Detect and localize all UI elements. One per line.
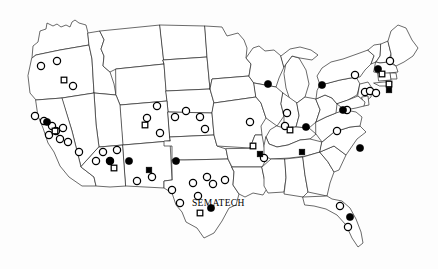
map-marker-open-circle[interactable] — [37, 62, 44, 69]
map-marker-open-circle[interactable] — [336, 202, 343, 209]
map-marker-open-circle[interactable] — [168, 186, 175, 193]
map-marker-filled-circle[interactable] — [125, 157, 132, 164]
map-marker-open-square[interactable] — [250, 143, 256, 149]
map-marker-open-circle[interactable] — [203, 173, 210, 180]
map-marker-open-circle[interactable] — [182, 107, 189, 114]
map-marker-open-square[interactable] — [386, 81, 392, 87]
map-marker-filled-circle[interactable] — [346, 213, 353, 220]
map-marker-open-square[interactable] — [111, 165, 117, 171]
map-marker-open-circle[interactable] — [333, 127, 340, 134]
map-marker-open-circle[interactable] — [133, 177, 140, 184]
map-marker-filled-circle[interactable] — [106, 157, 113, 164]
state-utah — [94, 93, 123, 147]
map-marker-open-circle[interactable] — [143, 114, 150, 121]
map-marker-filled-circle[interactable] — [172, 157, 179, 164]
map-marker-filled-circle[interactable] — [356, 144, 363, 151]
map-marker-filled-circle[interactable] — [302, 123, 309, 130]
map-labels-layer: SEMATECH — [192, 198, 245, 208]
map-marker-open-circle[interactable] — [148, 173, 155, 180]
map-marker-open-circle[interactable] — [92, 157, 99, 164]
map-marker-open-circle[interactable] — [99, 148, 106, 155]
map-marker-open-square[interactable] — [61, 77, 67, 83]
map-marker-open-circle[interactable] — [201, 125, 208, 132]
map-marker-open-circle[interactable] — [69, 82, 76, 89]
map-marker-open-circle[interactable] — [64, 138, 71, 145]
map-marker-open-circle[interactable] — [351, 71, 358, 78]
map-marker-open-square[interactable] — [142, 122, 148, 128]
map-marker-open-square[interactable] — [197, 210, 203, 216]
map-marker-open-circle[interactable] — [344, 223, 351, 230]
sematech-map-figure: SEMATECH — [0, 0, 438, 269]
us-map-svg: SEMATECH — [0, 0, 438, 269]
map-marker-open-circle[interactable] — [171, 113, 178, 120]
map-marker-open-circle[interactable] — [189, 179, 196, 186]
map-marker-open-circle[interactable] — [75, 148, 82, 155]
state-michigan-lower — [284, 56, 309, 103]
map-marker-open-circle[interactable] — [176, 199, 183, 206]
map-marker-filled-circle[interactable] — [318, 81, 325, 88]
state-wyoming — [116, 64, 167, 105]
state-south-dakota — [163, 57, 210, 91]
map-marker-open-circle[interactable] — [59, 124, 66, 131]
map-marker-filled-square[interactable] — [257, 151, 263, 157]
state-nebraska — [166, 89, 214, 113]
state-mississippi — [262, 159, 286, 193]
map-marker-filled-square[interactable] — [386, 87, 392, 93]
map-marker-filled-circle[interactable] — [264, 80, 271, 87]
map-marker-filled-square[interactable] — [299, 149, 305, 155]
map-marker-open-circle[interactable] — [246, 118, 253, 125]
map-marker-open-circle[interactable] — [209, 180, 216, 187]
map-marker-open-circle[interactable] — [153, 102, 160, 109]
map-marker-open-circle[interactable] — [386, 57, 393, 64]
map-marker-filled-circle[interactable] — [339, 106, 346, 113]
map-marker-open-circle[interactable] — [196, 113, 203, 120]
map-marker-filled-square[interactable] — [146, 167, 152, 173]
state-outlines-group — [28, 20, 418, 247]
map-marker-open-circle[interactable] — [221, 176, 228, 183]
map-marker-open-circle[interactable] — [31, 112, 38, 119]
map-marker-filled-circle[interactable] — [43, 118, 50, 125]
map-label-sematech: SEMATECH — [192, 198, 245, 208]
map-marker-open-circle[interactable] — [53, 57, 60, 64]
map-marker-open-square[interactable] — [287, 127, 293, 133]
state-florida — [303, 196, 363, 247]
map-marker-open-circle[interactable] — [372, 89, 379, 96]
map-marker-open-circle[interactable] — [45, 131, 52, 138]
map-marker-open-circle[interactable] — [113, 146, 120, 153]
map-marker-open-circle[interactable] — [156, 129, 163, 136]
map-marker-open-square[interactable] — [379, 71, 385, 77]
map-marker-open-square[interactable] — [52, 128, 58, 134]
map-marker-open-circle[interactable] — [56, 135, 63, 142]
map-marker-open-circle[interactable] — [283, 109, 290, 116]
